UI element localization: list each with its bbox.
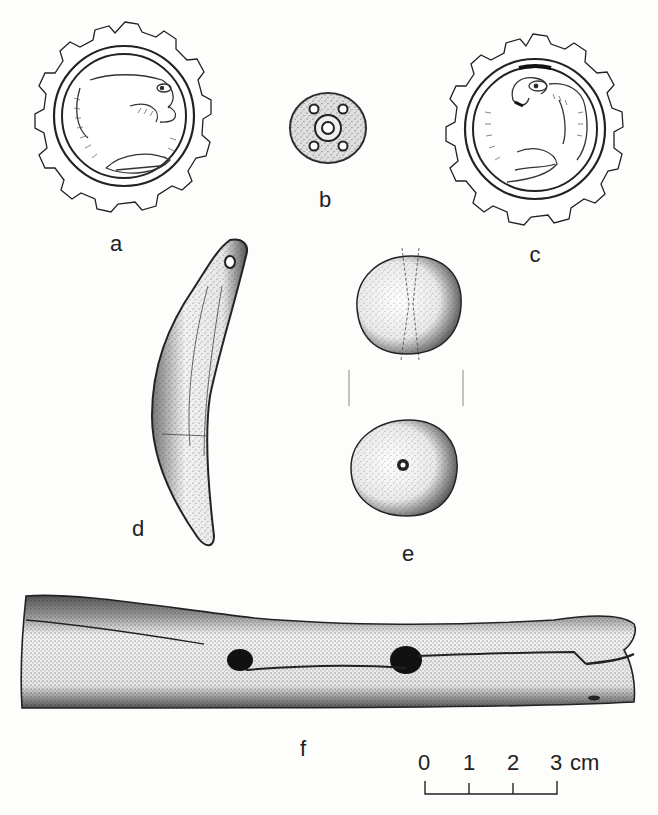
figure-b-disc-bead — [288, 88, 370, 168]
scale-tick-label-0: 0 — [418, 752, 430, 774]
cog-seal-bird-icon — [437, 32, 637, 232]
figure-d-tooth-pendant — [138, 236, 254, 552]
bone-tube-icon — [14, 584, 644, 710]
bead-two-views-icon — [345, 248, 475, 538]
figure-a-seal — [30, 18, 220, 218]
artifact-plate: a b — [0, 0, 658, 815]
figure-c-seal — [437, 32, 637, 232]
figure-label-d: d — [123, 518, 153, 540]
scale-tick-label-2: 2 — [507, 752, 519, 774]
figure-label-f: f — [288, 738, 318, 760]
figure-label-b: b — [310, 189, 340, 211]
figure-label-c: c — [520, 244, 550, 266]
figure-f-bone-tube — [14, 584, 644, 710]
cog-seal-animal-icon — [30, 18, 220, 218]
scale-ruler-icon — [424, 780, 574, 800]
figure-label-e: e — [393, 543, 423, 565]
disc-bead-icon — [288, 88, 370, 168]
figure-e-bead — [345, 248, 475, 538]
scale-unit: cm — [570, 752, 599, 774]
tooth-pendant-icon — [138, 236, 254, 552]
figure-label-a: a — [101, 233, 131, 255]
scale-bar: 0 1 2 3 cm — [418, 752, 618, 802]
scale-tick-label-1: 1 — [463, 752, 475, 774]
scale-tick-label-3: 3 — [550, 752, 562, 774]
